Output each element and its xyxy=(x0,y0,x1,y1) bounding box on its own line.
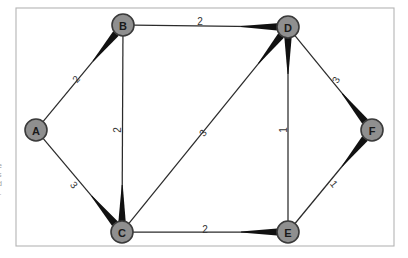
node-label: E xyxy=(284,227,291,239)
edge-weight-label: 2 xyxy=(202,224,208,235)
edge-head-marker xyxy=(258,33,284,64)
graph-node-f[interactable]: F xyxy=(361,119,383,141)
graph-edge xyxy=(43,31,119,121)
edge-weight-label: 1 xyxy=(328,178,340,190)
edge-head-marker xyxy=(93,31,119,61)
edge-head-marker xyxy=(241,23,277,30)
node-label: F xyxy=(369,125,376,137)
graph-node-b[interactable]: B xyxy=(112,14,134,36)
graph-node-e[interactable]: E xyxy=(277,221,299,243)
edge-head-marker xyxy=(241,228,277,235)
edge-layer xyxy=(43,23,368,235)
edge-head-marker xyxy=(118,185,125,221)
graph-edge xyxy=(295,136,368,223)
edge-head-marker xyxy=(342,93,368,123)
weight-label-layer: 232232131 xyxy=(68,16,342,235)
graph-edge xyxy=(129,33,284,223)
graph-node-a[interactable]: A xyxy=(25,119,47,141)
edge-weight-label: 3 xyxy=(68,179,80,191)
edge-weight-label: 3 xyxy=(330,75,343,85)
graph-node-c[interactable]: C xyxy=(111,221,133,243)
node-label: A xyxy=(32,125,40,137)
edge-weight-label: 2 xyxy=(70,73,82,85)
graph-edge xyxy=(43,138,118,226)
graph-canvas: ABCDEF 232232131 xyxy=(0,0,408,258)
edge-weight-label: 1 xyxy=(278,127,289,133)
edge-weight-label: 2 xyxy=(197,16,203,27)
figure-frame xyxy=(16,8,394,246)
node-label: B xyxy=(119,20,127,32)
caption-fragment: : e s d l. xyxy=(0,152,14,197)
graph-figure: ABCDEF 232232131 : e s d l. xyxy=(0,0,408,258)
graph-edge xyxy=(134,23,277,30)
node-label: D xyxy=(284,22,292,34)
graph-node-d[interactable]: D xyxy=(277,16,299,38)
edge-weight-label: 2 xyxy=(112,127,123,133)
edge-line xyxy=(129,36,281,224)
edge-head-marker xyxy=(284,38,291,74)
edge-head-marker xyxy=(342,136,368,166)
node-layer: ABCDEF xyxy=(25,14,383,243)
node-label: C xyxy=(118,227,126,239)
edge-head-marker xyxy=(91,196,117,226)
